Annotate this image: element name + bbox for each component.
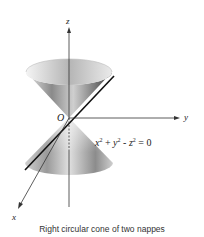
x-axis-label: x: [12, 213, 16, 222]
cone-equation: x2 + y2 - z2 = 0: [95, 137, 151, 148]
origin-label: O: [57, 113, 64, 123]
y-axis-label: y: [184, 113, 188, 122]
eq-rhs: = 0: [136, 137, 152, 148]
y-axis: [69, 116, 180, 120]
eq-minus: -: [121, 137, 129, 148]
figure-caption: Right circular cone of two nappes: [0, 224, 204, 234]
cone-diagram: [0, 0, 204, 237]
z-axis: [67, 27, 71, 207]
eq-plus: +: [102, 137, 113, 148]
z-axis-label: z: [66, 17, 70, 26]
